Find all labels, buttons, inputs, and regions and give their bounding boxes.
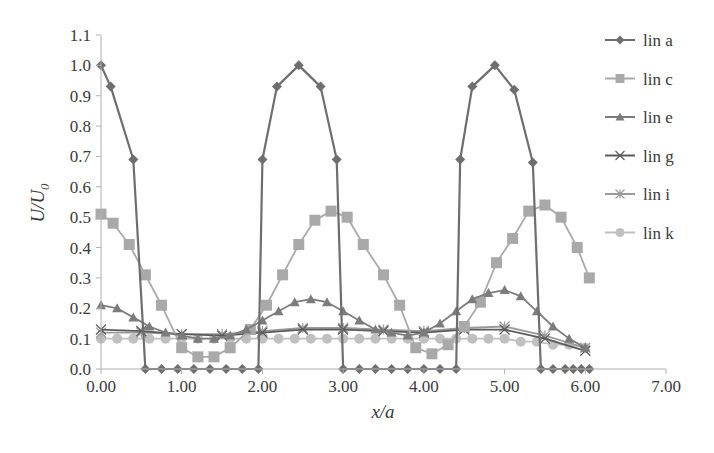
- y-tick-label: 0.6: [70, 178, 91, 197]
- x-tick-label: 0.00: [86, 377, 116, 396]
- legend: lin alin clin elin glin ilin k: [605, 31, 674, 243]
- legend-item: lin k: [605, 224, 674, 243]
- legend-item: lin e: [605, 108, 673, 127]
- x-tick-label: 4.00: [409, 377, 439, 396]
- legend-label: lin e: [643, 108, 673, 127]
- y-axis-title: U/U0: [27, 183, 52, 223]
- x-tick-label: 1.00: [167, 377, 197, 396]
- legend-item: lin a: [605, 31, 673, 50]
- y-tick-label: 1.1: [70, 26, 91, 45]
- legend-label: lin i: [643, 185, 670, 204]
- legend-item: lin c: [605, 70, 673, 89]
- y-axis: 0.00.10.20.30.40.50.60.70.80.91.01.1: [70, 26, 101, 379]
- legend-label: lin g: [643, 147, 674, 166]
- legend-label: lin a: [643, 31, 673, 50]
- y-tick-label: 0.7: [70, 147, 92, 166]
- svg-text:U/U0: U/U0: [27, 183, 52, 223]
- x-axis-title: x/a: [370, 401, 394, 422]
- x-tick-label: 3.00: [328, 377, 358, 396]
- y-tick-label: 0.3: [70, 269, 91, 288]
- legend-label: lin c: [643, 70, 673, 89]
- y-tick-label: 0.2: [70, 299, 91, 318]
- line-chart: 0.00.10.20.30.40.50.60.70.80.91.01.1 0.0…: [0, 0, 714, 453]
- x-tick-label: 2.00: [248, 377, 278, 396]
- plot-area: [96, 60, 595, 374]
- x-tick-label: 7.00: [651, 377, 681, 396]
- y-tick-label: 0.1: [70, 330, 91, 349]
- x-axis: 0.001.002.003.004.005.006.007.00: [86, 369, 681, 396]
- legend-item: lin i: [605, 185, 670, 204]
- legend-label: lin k: [643, 224, 674, 243]
- y-tick-label: 0.9: [70, 87, 91, 106]
- x-tick-label: 6.00: [570, 377, 600, 396]
- x-tick-label: 5.00: [490, 377, 520, 396]
- y-tick-label: 1.0: [70, 56, 91, 75]
- y-tick-label: 0.4: [70, 239, 92, 258]
- y-tick-label: 0.5: [70, 208, 91, 227]
- legend-item: lin g: [605, 147, 674, 166]
- y-tick-label: 0.8: [70, 117, 91, 136]
